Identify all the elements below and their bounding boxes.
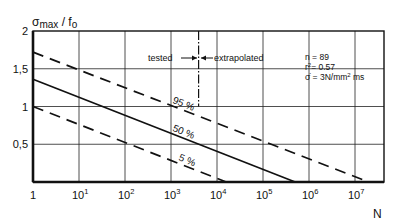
y-tick-label: 0,5 <box>13 138 28 150</box>
y-axis-ticks: 0,511,52 <box>13 25 28 150</box>
x-tick-label: 105 <box>256 187 272 201</box>
series-line <box>33 79 295 182</box>
extrapolated-label: extrapolated <box>214 53 264 63</box>
fatigue-chart: 1101102103104105106107 0,511,52 95 %50 %… <box>0 0 393 223</box>
stats-annotation: n = 89 r2= 0.57 σ̇ = 3N/mm2 ms <box>305 52 364 82</box>
series-labels: 95 %50 %5 % <box>171 94 197 168</box>
x-tick-label: 104 <box>210 187 226 201</box>
tested-label: tested <box>148 53 173 63</box>
stat-n: n = 89 <box>305 52 329 62</box>
y-tick-label: 1,5 <box>13 63 28 75</box>
tested-extrapolated-annotation: tested extrapolated <box>148 53 264 63</box>
x-tick-label: 102 <box>118 187 134 201</box>
x-axis-label: N <box>373 207 382 221</box>
y-tick-label: 1 <box>22 101 28 113</box>
tested-arrowhead-icon <box>192 56 197 61</box>
stat-stress-rate: σ̇ = 3N/mm2 ms <box>305 72 364 82</box>
x-tick-label: 101 <box>72 187 88 201</box>
y-tick-label: 2 <box>22 25 28 37</box>
x-tick-label: 1 <box>30 189 36 201</box>
x-axis-ticks: 1101102103104105106107 <box>30 31 384 201</box>
series-label: 95 % <box>171 94 196 113</box>
x-tick-label: 107 <box>348 187 364 201</box>
stat-r2: r2= 0.57 <box>305 62 335 72</box>
grid-lines <box>33 31 384 182</box>
x-tick-label: 103 <box>164 187 180 201</box>
y-axis-label: σmax / fo <box>32 15 78 30</box>
x-tick-label: 106 <box>302 187 318 201</box>
series-label: 5 % <box>177 152 197 169</box>
chart-svg: 1101102103104105106107 0,511,52 95 %50 %… <box>0 0 393 223</box>
extrapolated-arrowhead-icon <box>201 56 206 61</box>
